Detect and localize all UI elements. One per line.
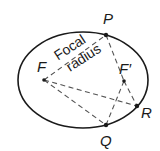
line-f-q: [44, 80, 106, 125]
ellipse-focal-radius-diagram: P F F′ R Q Focal radius: [0, 0, 160, 151]
point-f2: [122, 79, 126, 83]
label-f2: F′: [119, 60, 132, 77]
point-q: [104, 123, 108, 127]
point-r: [135, 104, 139, 108]
label-q: Q: [100, 132, 112, 149]
label-r: R: [141, 104, 152, 121]
line-f2-r: [124, 81, 137, 106]
point-f: [42, 78, 46, 82]
point-p: [104, 33, 108, 37]
label-p: P: [103, 10, 113, 27]
label-f: F: [37, 58, 47, 75]
